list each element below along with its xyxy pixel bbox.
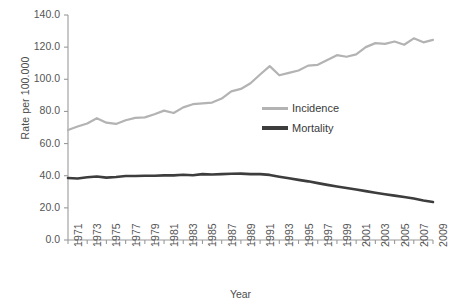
legend-label: Mortality (292, 122, 334, 134)
x-tick-label: 1975 (110, 223, 122, 247)
x-tick-label: 2009 (437, 223, 449, 247)
x-tick-label: 1973 (91, 223, 103, 247)
x-tick-label: 1999 (341, 223, 353, 247)
x-tick-label: 1989 (245, 223, 257, 247)
x-tick-label: 1991 (264, 223, 276, 247)
x-axis-title-wrap: Year (0, 288, 441, 300)
x-tick-label: 1993 (283, 223, 295, 247)
legend-item-mortality: Mortality (262, 118, 339, 138)
legend-swatch-icon (262, 107, 288, 110)
x-axis-title: Year (230, 288, 251, 300)
x-tick-label: 1977 (130, 223, 142, 247)
x-tick-label: 1983 (187, 223, 199, 247)
x-tick-label: 2007 (418, 223, 430, 247)
x-tick-label: 1981 (168, 223, 180, 247)
x-tick-label: 1985 (206, 223, 218, 247)
x-tick-label: 2003 (379, 223, 391, 247)
legend-label: Incidence (292, 102, 339, 114)
legend-item-incidence: Incidence (262, 98, 339, 118)
x-tick-label: 1997 (322, 223, 334, 247)
x-tick-label: 1979 (149, 223, 161, 247)
legend-swatch-icon (262, 126, 288, 130)
x-tick-label: 1971 (72, 223, 84, 247)
x-tick-label: 2001 (360, 223, 372, 247)
x-tick-label: 1987 (226, 223, 238, 247)
chart-legend: IncidenceMortality (262, 98, 339, 138)
x-tick-label: 1995 (303, 223, 315, 247)
x-tick-label: 2005 (399, 223, 411, 247)
